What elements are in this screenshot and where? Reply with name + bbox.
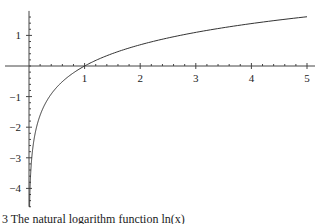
x-tick-label: 5: [304, 72, 310, 84]
log-curve: [30, 17, 307, 207]
y-tick-label: −1: [9, 91, 21, 103]
y-tick-label: 1: [16, 29, 22, 41]
y-tick-label: −4: [9, 182, 21, 194]
x-tick-label: 1: [82, 72, 88, 84]
line-chart: 123451−1−2−3−4: [0, 0, 319, 224]
y-tick-label: −3: [9, 152, 21, 164]
x-tick-label: 2: [137, 72, 143, 84]
axes: 123451−1−2−3−4: [5, 11, 315, 207]
y-tick-label: −2: [9, 121, 21, 133]
figure-caption: 3 The natural logarithm function ln(x): [2, 212, 185, 224]
x-tick-label: 3: [193, 72, 199, 84]
x-tick-label: 4: [249, 72, 255, 84]
